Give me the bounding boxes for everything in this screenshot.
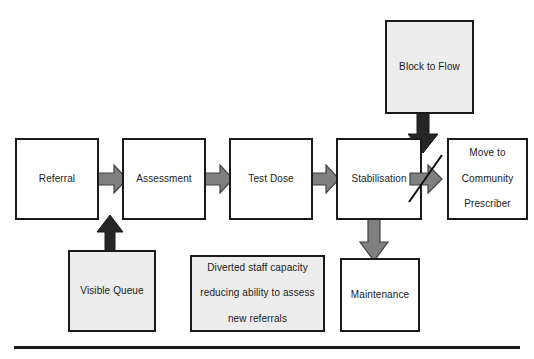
diverted-label-line-2: reducing ability to assess	[200, 287, 314, 300]
node-referral-label: Referral	[39, 173, 75, 186]
diverted-label-line-1: Diverted staff capacity	[200, 262, 314, 275]
node-visible-queue[interactable]: Visible Queue	[68, 250, 156, 332]
diverted-label-line-3: new referrals	[200, 313, 314, 326]
flow-diagram: Block to Flow Referral Assessment Test D…	[0, 0, 534, 359]
move-label-line-3: Prescriber	[462, 198, 513, 211]
node-visible-queue-label: Visible Queue	[80, 285, 143, 298]
move-label-line-1: Move to	[462, 147, 513, 160]
arrow-stabilisation-to-maintenance	[358, 215, 390, 263]
node-block-to-flow[interactable]: Block to Flow	[385, 20, 474, 114]
horizontal-divider	[14, 346, 520, 349]
node-referral[interactable]: Referral	[15, 138, 99, 220]
node-stabilisation-label: Stabilisation	[351, 173, 406, 186]
node-test-dose[interactable]: Test Dose	[229, 138, 313, 220]
block-slash-icon	[406, 152, 448, 206]
node-assessment-label: Assessment	[136, 173, 191, 186]
node-move-to-community-prescriber[interactable]: Move to Community Prescriber	[447, 138, 528, 220]
node-block-to-flow-label: Block to Flow	[399, 61, 460, 74]
node-move-to-community-prescriber-label: Move to Community Prescriber	[462, 147, 513, 211]
node-maintenance[interactable]: Maintenance	[340, 258, 420, 332]
node-maintenance-label: Maintenance	[351, 289, 409, 302]
node-diverted-staff-capacity-label: Diverted staff capacity reducing ability…	[200, 262, 314, 326]
move-label-line-2: Community	[462, 173, 513, 186]
node-diverted-staff-capacity[interactable]: Diverted staff capacity reducing ability…	[190, 255, 325, 332]
node-assessment[interactable]: Assessment	[122, 138, 206, 220]
node-test-dose-label: Test Dose	[248, 173, 293, 186]
